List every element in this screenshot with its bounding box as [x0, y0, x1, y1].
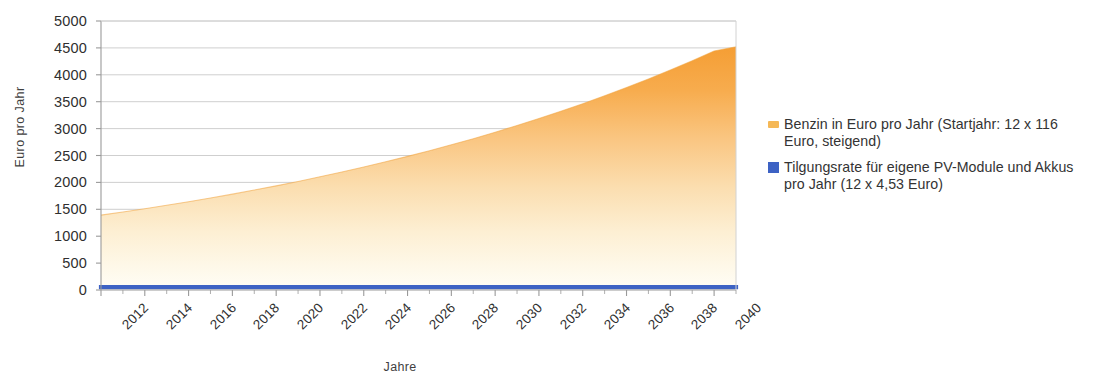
legend-label: Tilgungsrate für eigene PV-Module und Ak…: [784, 159, 1088, 193]
series-benzin-area: [101, 47, 736, 290]
legend-swatch-square-icon: [768, 162, 779, 173]
legend-label: Benzin in Euro pro Jahr (Startjahr: 12 x…: [784, 116, 1088, 150]
legend-swatch-area-icon: [768, 121, 779, 128]
legend-entry: Tilgungsrate für eigene PV-Module und Ak…: [768, 159, 1088, 193]
legend-entry: Benzin in Euro pro Jahr (Startjahr: 12 x…: [768, 116, 1088, 150]
chart-container: Euro pro Jahr 05001000150020002500300035…: [0, 0, 1093, 385]
chart-legend: Benzin in Euro pro Jahr (Startjahr: 12 x…: [768, 116, 1088, 202]
x-axis-title: Jahre: [330, 360, 470, 374]
